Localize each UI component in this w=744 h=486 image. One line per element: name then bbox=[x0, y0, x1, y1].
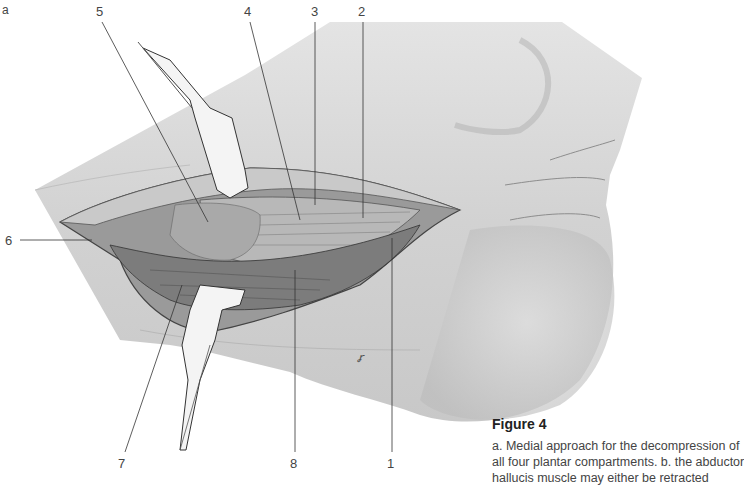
callout-2: 2 bbox=[358, 5, 365, 18]
callout-7: 7 bbox=[118, 457, 125, 470]
caption-line-2: all four plantar compartments. b. the ab… bbox=[492, 454, 692, 470]
figure-title: Figure 4 bbox=[492, 416, 692, 432]
caption-line-1: a. Medial approach for the decompression… bbox=[492, 438, 692, 454]
figure-caption: Figure 4 a. Medial approach for the deco… bbox=[492, 416, 692, 486]
callout-6: 6 bbox=[5, 234, 12, 247]
callout-3: 3 bbox=[311, 5, 318, 18]
caption-line-3: hallucis muscle may either be retracted bbox=[492, 470, 692, 486]
callout-5: 5 bbox=[96, 5, 103, 18]
callout-4: 4 bbox=[244, 5, 251, 18]
callout-1: 1 bbox=[387, 457, 394, 470]
callout-8: 8 bbox=[290, 457, 297, 470]
